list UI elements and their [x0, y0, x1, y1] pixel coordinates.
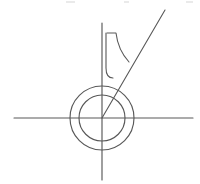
- j-hook-stroke: [106, 33, 113, 78]
- diagram-canvas: [0, 0, 200, 184]
- diagonal-ray: [102, 10, 165, 118]
- line-diagram: [0, 0, 200, 184]
- arc-curve: [107, 33, 129, 62]
